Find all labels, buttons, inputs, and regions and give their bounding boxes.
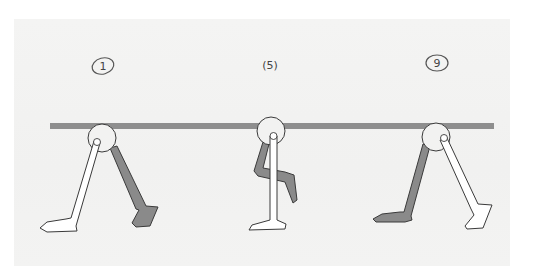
frame-9: 9 — [373, 55, 492, 229]
frame-1-front-leg — [40, 141, 100, 232]
svg-text:1: 1 — [100, 60, 107, 73]
frame-5-label: (5) — [262, 59, 278, 72]
frame-1-back-leg — [110, 146, 158, 227]
frame-5: (5) — [249, 59, 297, 230]
frame-1-label: 1 — [90, 55, 115, 76]
svg-text:9: 9 — [434, 57, 441, 70]
frame-9-back-leg — [373, 144, 430, 222]
frame-1: 1 — [40, 55, 158, 232]
frame-9-front-leg — [440, 138, 492, 229]
walk-cycle-drawing: 1 (5) 9 — [0, 0, 550, 279]
frame-9-label: 9 — [426, 55, 448, 71]
